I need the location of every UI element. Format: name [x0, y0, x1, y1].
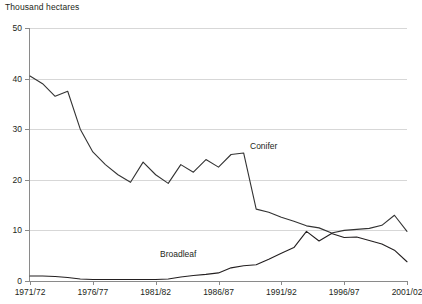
x-tick-label: 1976/77: [77, 287, 108, 297]
y-tick-label: 40: [0, 74, 22, 84]
y-tick-mark: [25, 28, 30, 29]
y-tick-label: 10: [0, 225, 22, 235]
x-tick-mark: [93, 281, 94, 285]
y-tick-label: 0: [0, 276, 22, 286]
y-tick-mark: [25, 180, 30, 181]
y-tick-label: 20: [0, 175, 22, 185]
gridline: [30, 28, 407, 29]
x-tick-label: 1981/82: [140, 287, 171, 297]
x-tick-mark: [407, 281, 408, 285]
x-tick-label: 1996/97: [329, 287, 360, 297]
gridline: [30, 230, 407, 231]
series-line-broadleaf: [30, 231, 407, 279]
x-tick-label: 1991/92: [266, 287, 297, 297]
y-tick-label: 30: [0, 124, 22, 134]
x-tick-mark: [156, 281, 157, 285]
chart-title: Thousand hectares: [5, 2, 79, 12]
x-tick-mark: [219, 281, 220, 285]
x-tick-mark: [344, 281, 345, 285]
x-tick-label: 1971/72: [15, 287, 46, 297]
y-tick-mark: [25, 79, 30, 80]
gridline: [30, 129, 407, 130]
series-label-conifer: Conifer: [250, 141, 277, 151]
x-tick-label: 2001/02: [392, 287, 422, 297]
y-tick-label: 50: [0, 23, 22, 33]
x-tick-mark: [281, 281, 282, 285]
gridline: [30, 79, 407, 80]
gridline: [30, 180, 407, 181]
x-tick-mark: [30, 281, 31, 285]
series-line-conifer: [30, 76, 407, 233]
y-tick-mark: [25, 230, 30, 231]
chart-footnote: [5, 297, 415, 304]
x-tick-label: 1986/87: [203, 287, 234, 297]
y-axis-line: [29, 28, 30, 282]
y-tick-mark: [25, 129, 30, 130]
series-label-broadleaf: Broadleaf: [160, 249, 196, 259]
